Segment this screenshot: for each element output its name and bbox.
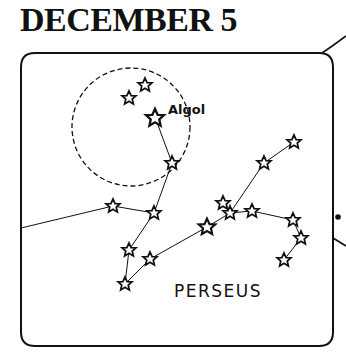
chart-frame — [21, 53, 333, 346]
connector-dot — [335, 214, 341, 220]
star-icon — [286, 213, 300, 226]
star-icon — [143, 252, 157, 265]
star-icon — [277, 253, 291, 266]
star-icon — [122, 243, 136, 256]
star-icon — [106, 199, 120, 212]
algol-highlight-circle — [72, 68, 190, 186]
star-icon — [122, 91, 136, 104]
star-icon — [257, 156, 271, 169]
star-chart: Algol PERSEUS — [0, 0, 346, 356]
connector-line-top — [322, 36, 346, 53]
star-icon — [147, 206, 161, 219]
star-icon — [245, 204, 259, 217]
connector-line-bottom — [333, 238, 346, 246]
star-icon — [199, 219, 216, 234]
algol-star-icon — [146, 109, 164, 126]
star-icon — [294, 231, 308, 244]
constellation-lines — [21, 117, 301, 284]
star-icon — [216, 196, 230, 209]
star-icon — [138, 78, 152, 91]
algol-label: Algol — [168, 102, 205, 117]
constellation-label: PERSEUS — [174, 281, 262, 301]
stars — [106, 78, 308, 290]
star-icon — [165, 156, 179, 169]
